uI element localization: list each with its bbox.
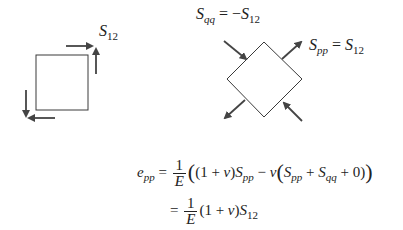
big-paren-close: ) bbox=[365, 159, 372, 184]
label-spp: Spp = S12 bbox=[309, 37, 364, 56]
subscript: 12 bbox=[107, 30, 118, 42]
symbol-s: S bbox=[240, 202, 248, 218]
equals: = bbox=[158, 164, 166, 180]
subscript: qq bbox=[204, 13, 215, 25]
subscript: 12 bbox=[249, 13, 260, 25]
subscript: pp bbox=[243, 171, 254, 183]
subscript: 12 bbox=[353, 44, 364, 56]
symbol-s: S bbox=[318, 164, 326, 180]
denominator: E bbox=[173, 173, 186, 189]
term: + 0) bbox=[337, 164, 365, 180]
label-sqq: Sqq = −S12 bbox=[196, 6, 260, 25]
arrow-compress-top-left-icon bbox=[224, 41, 246, 59]
fraction-1-over-e: 1E bbox=[184, 196, 197, 227]
fraction-1-over-e: 1E bbox=[173, 158, 186, 189]
term: (1 + bbox=[195, 164, 223, 180]
denominator: E bbox=[184, 211, 197, 227]
subscript: pp bbox=[317, 44, 328, 56]
symbol-s: S bbox=[196, 5, 204, 22]
poisson-ratio: v bbox=[228, 202, 235, 218]
numerator: 1 bbox=[184, 196, 197, 211]
minus-sign: − bbox=[232, 5, 241, 22]
term: (1 + bbox=[199, 202, 227, 218]
arrow-tension-top-right-icon bbox=[282, 42, 301, 59]
principal-arrows bbox=[224, 41, 302, 121]
square-element bbox=[36, 55, 88, 110]
equals: = bbox=[332, 36, 341, 53]
label-s12: S12 bbox=[99, 23, 118, 42]
subscript: qq bbox=[326, 171, 337, 183]
plus: + bbox=[302, 164, 318, 180]
arrow-compress-bottom-right-icon bbox=[284, 103, 302, 121]
symbol-s: S bbox=[241, 5, 249, 22]
minus: − bbox=[254, 164, 270, 180]
subscript: pp bbox=[291, 171, 302, 183]
symbol-s: S bbox=[99, 22, 107, 39]
numerator: 1 bbox=[173, 158, 186, 173]
symbol-s: S bbox=[235, 164, 243, 180]
equation-line-1: epp = 1E((1 + v)Spp − v(Spp + Sqq + 0)) bbox=[137, 158, 373, 189]
symbol-s: S bbox=[345, 36, 353, 53]
subscript: 12 bbox=[247, 209, 258, 221]
equals: = bbox=[170, 202, 178, 218]
symbol-s: S bbox=[309, 36, 317, 53]
equation-line-2: = 1E(1 + v)S12 bbox=[170, 196, 258, 227]
subscript: pp bbox=[144, 171, 155, 183]
equals: = bbox=[219, 5, 228, 22]
symbol-e: e bbox=[137, 164, 144, 180]
paren-open: ( bbox=[276, 159, 283, 184]
arrow-tension-bottom-left-icon bbox=[225, 100, 245, 118]
